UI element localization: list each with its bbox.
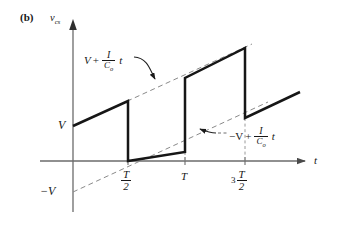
figure-panel-b: (b) vcs t V −V T 2 T 3 T 2 V+ I Co t −V+… <box>0 0 341 225</box>
y-tick-label-neg-v: −V <box>40 185 55 197</box>
upper-annotation-arrow <box>134 57 155 79</box>
fraction-denominator: Co <box>254 137 267 148</box>
equation-operator: + <box>245 130 251 142</box>
equation-variable: t <box>119 54 122 66</box>
fraction-denominator: 2 <box>121 181 131 192</box>
fraction-t-2: T 2 <box>237 169 247 192</box>
denominator-subscript: o <box>110 65 113 72</box>
y-axis <box>69 19 77 212</box>
panel-label: (b) <box>20 12 33 23</box>
fraction-i-over-co: I Co <box>254 126 267 149</box>
x-tick-label-t: T <box>181 171 187 182</box>
y-tick-label-v: V <box>58 119 65 131</box>
equation-variable: t <box>272 130 275 142</box>
fraction-denominator: Co <box>102 61 115 72</box>
equation-operator: + <box>93 54 99 66</box>
fraction-i-over-co: I Co <box>102 50 115 73</box>
fraction-denominator: 2 <box>237 181 247 192</box>
x-tick-label-3t-over-2: 3 T 2 <box>231 169 247 192</box>
y-axis-subscript: cs <box>55 18 60 26</box>
fraction-t-2: T 2 <box>121 169 131 192</box>
lower-equation-annotation: −V+ I Co t <box>229 126 275 149</box>
equation-lead-term: −V <box>229 130 243 142</box>
upper-equation-annotation: V+ I Co t <box>84 50 122 73</box>
equation-lead-term: V <box>84 54 91 66</box>
y-axis-label: vcs <box>50 13 60 26</box>
x-axis-label: t <box>314 155 317 166</box>
denominator-subscript: o <box>262 141 265 148</box>
fraction-lead-coefficient: 3 <box>231 175 236 185</box>
x-tick-label-t-over-2: T 2 <box>121 169 131 192</box>
